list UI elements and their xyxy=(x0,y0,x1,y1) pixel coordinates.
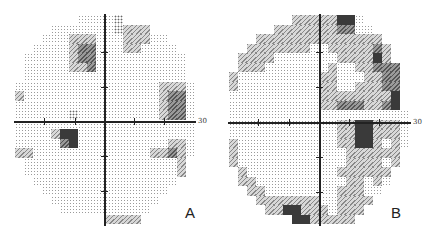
field-cell xyxy=(274,186,283,196)
field-cell xyxy=(69,44,78,54)
field-cell xyxy=(60,215,69,225)
field-cell xyxy=(177,186,186,196)
field-cell xyxy=(114,34,123,44)
field-cell xyxy=(355,44,364,54)
field-cell xyxy=(159,44,168,54)
field-cell xyxy=(141,148,150,158)
field-cell xyxy=(247,148,256,158)
field-cell xyxy=(87,148,96,158)
field-cell xyxy=(292,82,301,92)
field-cell xyxy=(355,101,364,111)
field-cell xyxy=(274,148,283,158)
field-cell xyxy=(42,196,51,206)
field-cell xyxy=(132,34,141,44)
field-cell xyxy=(364,148,373,158)
field-cell xyxy=(400,177,409,187)
field-cell xyxy=(256,82,265,92)
field-cell xyxy=(150,129,159,139)
field-cell xyxy=(382,15,391,25)
axis-tick xyxy=(316,52,323,53)
field-cell xyxy=(265,101,274,111)
field-cell xyxy=(229,44,238,54)
field-cell xyxy=(346,177,355,187)
axis-label-30: 30 xyxy=(198,117,207,125)
field-cell xyxy=(60,158,69,168)
field-cell xyxy=(310,139,319,149)
field-cell xyxy=(337,129,346,139)
field-cell xyxy=(132,101,141,111)
field-cell xyxy=(114,196,123,206)
field-cell xyxy=(400,148,409,158)
field-cell xyxy=(24,63,33,73)
field-cell xyxy=(141,129,150,139)
field-cell xyxy=(186,53,195,63)
field-cell xyxy=(265,63,274,73)
field-cell xyxy=(168,25,177,35)
field-cell xyxy=(123,167,132,177)
field-cell xyxy=(274,196,283,206)
field-cell xyxy=(337,110,346,120)
field-cell xyxy=(355,53,364,63)
field-cell xyxy=(60,177,69,187)
field-cell xyxy=(265,167,274,177)
field-cell xyxy=(15,44,24,54)
field-cell xyxy=(400,196,409,206)
field-cell xyxy=(301,91,310,101)
field-cell xyxy=(292,196,301,206)
field-cell xyxy=(69,139,78,149)
field-cell xyxy=(114,129,123,139)
field-cell xyxy=(186,63,195,73)
field-cell xyxy=(364,139,373,149)
axis-tick xyxy=(316,157,323,158)
field-cell xyxy=(238,177,247,187)
field-cell xyxy=(382,215,391,225)
field-cell xyxy=(373,34,382,44)
field-cell xyxy=(150,91,159,101)
field-cell xyxy=(150,196,159,206)
field-cell xyxy=(400,110,409,120)
field-cell xyxy=(105,177,114,187)
field-cell xyxy=(364,120,373,130)
field-cell xyxy=(400,34,409,44)
field-cell xyxy=(51,177,60,187)
field-cell xyxy=(265,196,274,206)
visual-field-plot-a: 30 A xyxy=(0,0,217,235)
field-cell xyxy=(132,205,141,215)
field-cell xyxy=(382,101,391,111)
field-cell xyxy=(328,15,337,25)
field-cell xyxy=(283,215,292,225)
field-cell xyxy=(382,148,391,158)
field-cell xyxy=(301,148,310,158)
field-cell xyxy=(150,177,159,187)
field-cell xyxy=(238,205,247,215)
field-cell xyxy=(400,44,409,54)
field-cell xyxy=(382,110,391,120)
field-cell xyxy=(391,91,400,101)
field-cell xyxy=(42,25,51,35)
field-cell xyxy=(310,15,319,25)
field-cell xyxy=(265,186,274,196)
field-cell xyxy=(159,205,168,215)
field-cell xyxy=(60,15,69,25)
field-cell xyxy=(310,34,319,44)
field-cell xyxy=(283,44,292,54)
field-cell xyxy=(141,167,150,177)
field-cell xyxy=(382,82,391,92)
field-cell xyxy=(114,139,123,149)
field-cell xyxy=(310,110,319,120)
field-cell xyxy=(310,196,319,206)
panel-label-b: B xyxy=(391,204,401,221)
field-cell xyxy=(24,139,33,149)
field-cell xyxy=(373,110,382,120)
field-cell xyxy=(292,72,301,82)
field-cell xyxy=(256,167,265,177)
field-cell xyxy=(69,158,78,168)
field-cell xyxy=(114,186,123,196)
field-cell xyxy=(247,110,256,120)
field-cell xyxy=(382,53,391,63)
field-cell xyxy=(265,120,274,130)
field-cell xyxy=(328,110,337,120)
field-cell xyxy=(60,34,69,44)
field-cell xyxy=(159,167,168,177)
field-cell xyxy=(123,215,132,225)
